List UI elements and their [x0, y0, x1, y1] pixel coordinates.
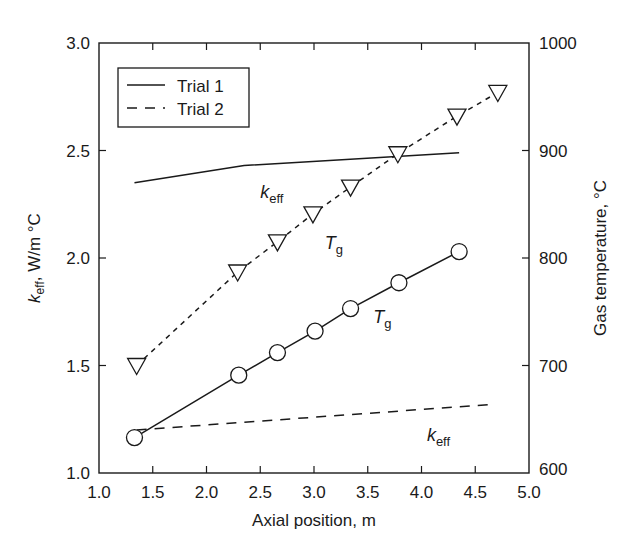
x-tick-label: 4.5	[463, 483, 487, 502]
triangle-down-marker-icon	[268, 235, 286, 251]
triangle-down-marker-icon	[489, 85, 507, 101]
x-tick-label: 1.0	[87, 483, 111, 502]
y-right-tick-label: 900	[539, 142, 567, 161]
triangle-down-marker-icon	[448, 109, 466, 125]
y-right-tick-label: 800	[539, 249, 567, 268]
series-line	[134, 153, 459, 183]
annotation-label: keff	[260, 182, 284, 206]
left-y-axis-label: keff, W/m °C	[25, 213, 47, 303]
left-y-axis-tick-labels: 1.01.52.02.53.0	[66, 34, 90, 483]
triangle-down-marker-icon	[342, 180, 360, 196]
series-trial-1-t-g	[126, 244, 467, 446]
y-left-tick-label: 1.0	[66, 464, 90, 483]
y-right-tick-label: 600	[539, 460, 567, 479]
triangle-down-marker-icon	[389, 147, 407, 163]
series-line	[137, 404, 495, 430]
annotation-label: Tg	[325, 233, 343, 257]
circle-marker-icon	[343, 301, 359, 317]
x-tick-label: 3.0	[302, 483, 326, 502]
y-left-tick-label: 2.0	[66, 249, 90, 268]
annotation-label: Tg	[373, 307, 391, 331]
annotation-label: keff	[427, 425, 451, 449]
right-y-axis-tick-labels: 6007008009001000	[539, 34, 577, 479]
x-tick-label: 3.5	[356, 483, 380, 502]
legend: Trial 1 Trial 2	[118, 68, 249, 127]
x-tick-label: 5.0	[517, 483, 541, 502]
circle-marker-icon	[231, 367, 247, 383]
right-y-axis-label: Gas temperature, °C	[591, 180, 610, 336]
circle-marker-icon	[391, 275, 407, 291]
x-tick-label: 2.5	[248, 483, 272, 502]
y-left-tick-label: 2.5	[66, 142, 90, 161]
legend-entry-trial-1: Trial 1	[177, 77, 224, 96]
series-trial-1-k-eff	[134, 153, 459, 183]
dual-axis-line-chart: 1.01.52.02.53.03.54.04.55.0 1.01.52.02.5…	[0, 0, 641, 550]
circle-marker-icon	[269, 345, 285, 361]
circle-marker-icon	[451, 244, 467, 260]
legend-entry-trial-2: Trial 2	[177, 100, 224, 119]
data-series	[126, 85, 506, 445]
y-right-tick-label: 1000	[539, 34, 577, 53]
circle-marker-icon	[307, 323, 323, 339]
x-tick-label: 1.5	[141, 483, 165, 502]
x-tick-label: 2.0	[195, 483, 219, 502]
triangle-down-marker-icon	[304, 207, 322, 223]
triangle-down-marker-icon	[128, 359, 146, 375]
x-tick-label: 4.0	[410, 483, 434, 502]
y-left-tick-label: 1.5	[66, 357, 90, 376]
circle-marker-icon	[126, 430, 142, 446]
y-left-tick-label: 3.0	[66, 34, 90, 53]
x-axis-tick-labels: 1.01.52.02.53.03.54.04.55.0	[87, 483, 541, 502]
triangle-down-marker-icon	[229, 265, 247, 281]
y-right-tick-label: 700	[539, 357, 567, 376]
series-trial-2-k-eff	[137, 404, 495, 430]
x-axis-label: Axial position, m	[252, 511, 376, 530]
